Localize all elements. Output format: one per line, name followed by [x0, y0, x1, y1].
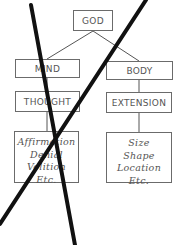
thought-label: THOUGHT: [24, 97, 71, 107]
extension-label: EXTENSION: [112, 98, 167, 108]
mind-label: MIND: [35, 64, 60, 74]
mode-location: Location: [117, 162, 161, 175]
mode-shape: Shape: [123, 150, 155, 163]
body-label: BODY: [126, 66, 152, 76]
extension-node: EXTENSION: [106, 92, 172, 113]
mode-etc: Etc.: [129, 175, 149, 188]
connector-lines: [0, 0, 177, 245]
mind-modes-list: Affirmation Denial Volition Etc.: [14, 131, 79, 183]
god-label: GOD: [82, 16, 104, 26]
mind-node: MIND: [15, 59, 80, 78]
body-modes-list: Size Shape Location Etc.: [106, 132, 172, 183]
god-node: GOD: [73, 10, 113, 31]
mode-denial: Denial: [30, 149, 63, 162]
mode-volition: Volition: [27, 161, 66, 174]
thought-node: THOUGHT: [15, 91, 80, 112]
mode-size: Size: [128, 137, 149, 150]
mode-affirmation: Affirmation: [18, 136, 76, 149]
body-node: BODY: [106, 61, 173, 80]
mode-etc: Etc.: [36, 174, 56, 187]
